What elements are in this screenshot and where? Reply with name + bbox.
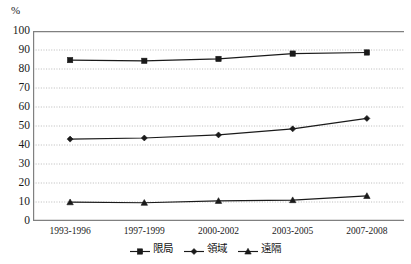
legend-label-2: 領域 [207, 243, 227, 254]
series-3 [67, 193, 370, 206]
data-point-1-3 [216, 56, 221, 61]
y-tick-label-30: 30 [19, 158, 31, 170]
data-point-2-3 [216, 132, 222, 138]
data-point-legend-1 [137, 249, 142, 254]
legend-marker-icon-1 [130, 243, 150, 254]
data-point-2-5 [364, 115, 370, 121]
legend-swatch-svg-3 [238, 246, 258, 257]
series-2 [67, 115, 370, 142]
legend-item-2[interactable]: 領域 [184, 243, 227, 254]
y-tick-label-60: 60 [19, 101, 31, 113]
x-tick-label-4: 2003-2005 [272, 226, 313, 236]
x-tick-label-1: 1993-1996 [50, 226, 91, 236]
y-tick-label-70: 70 [19, 82, 31, 94]
y-tick-label-100: 100 [13, 25, 30, 37]
legend-label-1: 限局 [153, 243, 173, 254]
data-point-1-4 [290, 51, 295, 56]
y-tick-label-10: 10 [19, 196, 31, 208]
x-tick-label-5: 2007-2008 [346, 226, 387, 236]
data-point-1-1 [67, 57, 72, 62]
legend-item-1[interactable]: 限局 [130, 243, 173, 254]
legend-swatch-svg-2 [184, 246, 204, 257]
legend-swatch-svg-1 [130, 246, 150, 257]
legend-marker-icon-2 [184, 243, 204, 254]
y-tick-label-40: 40 [19, 139, 31, 151]
plot-area [33, 31, 404, 221]
line-chart: % 1009080706050403020100 1993-19961997-1… [0, 0, 411, 264]
data-point-2-1 [67, 136, 73, 142]
legend-marker-icon-3 [238, 243, 258, 254]
y-tick-label-80: 80 [19, 63, 31, 75]
x-tick-label-2: 1997-1999 [124, 226, 165, 236]
y-axis-tick-labels: 1009080706050403020100 [0, 31, 30, 221]
data-point-2-2 [141, 135, 147, 141]
data-point-1-2 [142, 58, 147, 63]
y-tick-label-0: 0 [24, 215, 30, 227]
plot-svg [33, 31, 404, 221]
y-axis-unit-label: % [11, 5, 20, 16]
y-tick-label-90: 90 [19, 44, 31, 56]
series-1 [67, 50, 369, 64]
data-point-2-4 [290, 126, 296, 132]
y-tick-label-20: 20 [19, 177, 31, 189]
chart-legend: 限局領域遠隔 [0, 243, 411, 254]
legend-label-3: 遠隔 [261, 243, 281, 254]
legend-item-3[interactable]: 遠隔 [238, 243, 281, 254]
x-axis-tick-labels: 1993-19961997-19992000-20022003-20052007… [33, 226, 404, 240]
x-tick-label-3: 2000-2002 [198, 226, 239, 236]
data-point-legend-2 [191, 249, 197, 255]
data-point-1-5 [364, 50, 369, 55]
y-tick-label-50: 50 [19, 120, 31, 132]
